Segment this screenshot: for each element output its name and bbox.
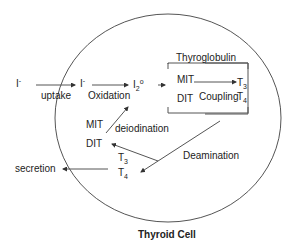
iodide-outside-label: I- <box>16 79 21 90</box>
t4-label: T4 <box>118 168 128 179</box>
mit-thyroglobulin-label: MIT <box>177 75 194 85</box>
deamination-label: Deamination <box>183 151 239 161</box>
oxidation-label: Oxidation <box>88 91 130 101</box>
coupling-label: Coupling <box>199 92 238 102</box>
t3-thyroglobulin-label: T3 <box>237 78 247 89</box>
uptake-label: uptake <box>41 91 71 101</box>
dit-thyroglobulin-label: DIT <box>177 94 193 104</box>
secretion-label: secretion <box>15 164 56 174</box>
dit-label: DIT <box>86 139 102 149</box>
mit-label: MIT <box>86 120 103 130</box>
iodine-label: I2o <box>133 80 144 91</box>
t3-label: T3 <box>118 153 128 164</box>
deiodination-label: deiodination <box>115 124 169 134</box>
diagram-title: Thyroid Cell <box>138 230 196 240</box>
cell-membrane <box>55 14 281 222</box>
thyroglobulin-label: Thyroglobulin <box>176 53 236 63</box>
iodide-inside-label: I- <box>80 79 85 90</box>
t4-thyroglobulin-label: T4 <box>237 92 247 103</box>
